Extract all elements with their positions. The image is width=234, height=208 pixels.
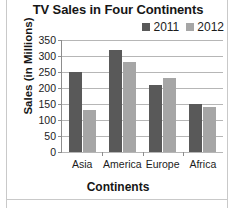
gridline xyxy=(62,88,223,89)
legend-label-2012: 2012 xyxy=(197,20,224,34)
y-tick-label: 150 xyxy=(38,98,56,110)
bar-europe-2011 xyxy=(149,85,162,152)
gridline xyxy=(62,40,223,41)
plot-area: 050100150200250300350AsiaAmericaEuropeAf… xyxy=(62,40,223,152)
y-tick-mark xyxy=(58,152,62,153)
legend-swatch-2011 xyxy=(142,23,150,31)
gridline xyxy=(62,72,223,73)
frame-border-right xyxy=(227,0,228,208)
chart-screenshot: TV Sales in Four Continents 2011 2012 Sa… xyxy=(0,0,234,208)
bar-asia-2011 xyxy=(69,72,82,152)
y-tick-mark xyxy=(58,136,62,137)
y-tick-label: 200 xyxy=(38,82,56,94)
y-tick-mark xyxy=(58,104,62,105)
legend-label-2011: 2011 xyxy=(153,20,179,34)
y-tick-label: 250 xyxy=(38,66,56,78)
y-tick-label: 300 xyxy=(38,50,56,62)
bar-asia-2012 xyxy=(83,110,96,152)
bar-america-2011 xyxy=(109,50,122,152)
y-tick-mark xyxy=(58,56,62,57)
y-tick-label: 0 xyxy=(50,146,56,158)
y-tick-mark xyxy=(58,40,62,41)
gridline xyxy=(62,56,223,57)
x-tick-label-asia: Asia xyxy=(72,158,92,170)
x-tick-label-africa: Africa xyxy=(189,158,216,170)
legend-swatch-2012 xyxy=(186,23,194,31)
chart-title: TV Sales in Four Continents xyxy=(10,2,226,17)
category-separator-tick xyxy=(102,152,103,156)
x-tick-label-america: America xyxy=(103,158,142,170)
chart-legend: 2011 2012 xyxy=(142,20,224,34)
bar-africa-2011 xyxy=(189,104,202,152)
bar-africa-2012 xyxy=(203,107,216,152)
y-tick-label: 50 xyxy=(44,130,56,142)
y-tick-label: 100 xyxy=(38,114,56,126)
frame-border-bottom xyxy=(6,199,228,200)
y-tick-label: 350 xyxy=(38,34,56,46)
y-tick-mark xyxy=(58,120,62,121)
category-separator-tick xyxy=(183,152,184,156)
bar-america-2012 xyxy=(123,62,136,152)
y-tick-mark xyxy=(58,72,62,73)
frame-border-left xyxy=(6,0,7,208)
legend-item-2011: 2011 xyxy=(142,20,179,34)
x-tick-label-europe: Europe xyxy=(146,158,180,170)
bar-europe-2012 xyxy=(163,78,176,152)
x-axis-title: Continents xyxy=(10,180,226,194)
y-tick-mark xyxy=(58,88,62,89)
legend-item-2012: 2012 xyxy=(186,20,224,34)
category-separator-tick xyxy=(143,152,144,156)
y-axis-title: Sales (in Millions) xyxy=(22,6,34,126)
